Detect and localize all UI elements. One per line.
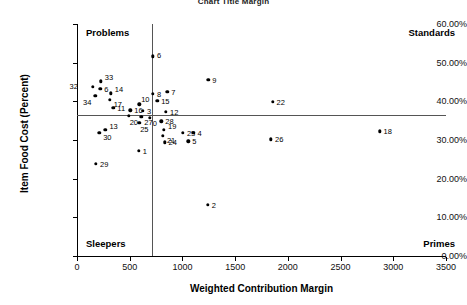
data-point-label: 5 xyxy=(192,137,196,146)
data-point xyxy=(151,92,154,95)
data-point xyxy=(98,87,101,90)
quadrant-label-problems: Problems xyxy=(86,27,129,38)
quadrant-label-sleepers: Sleepers xyxy=(86,238,126,249)
x-tick-label: 2000 xyxy=(278,262,298,272)
data-point-label: 9 xyxy=(212,76,216,85)
data-point-label: 32 xyxy=(69,82,77,91)
data-point xyxy=(141,109,144,112)
chart-title: Chart Title Margin xyxy=(0,0,467,6)
data-point xyxy=(187,139,190,142)
data-point-label: 7 xyxy=(171,87,175,96)
y-tick-label: 10.00% xyxy=(405,212,467,222)
data-point-label: 0 xyxy=(153,118,157,127)
x-tick-mark xyxy=(393,257,394,261)
data-point xyxy=(94,162,97,165)
y-tick-mark xyxy=(73,256,77,257)
y-axis-line xyxy=(77,24,78,257)
data-point-label: 11 xyxy=(117,103,125,112)
data-point xyxy=(97,131,100,134)
data-point xyxy=(91,85,94,88)
x-axis-title: Weighted Contribution Margin xyxy=(77,283,446,294)
data-point xyxy=(206,203,209,206)
data-point-label: 29 xyxy=(100,159,108,168)
data-point xyxy=(99,80,102,83)
y-tick-label: 0.00% xyxy=(405,251,467,261)
x-tick-label: 1000 xyxy=(172,262,192,272)
data-point-label: 1 xyxy=(143,146,147,155)
data-point xyxy=(181,131,184,134)
data-point-label: 22 xyxy=(277,98,285,107)
x-tick-label: 0 xyxy=(74,262,79,272)
quadrant-label-primes: Primes xyxy=(423,238,455,249)
data-point-label: 2 xyxy=(212,200,216,209)
data-point xyxy=(129,109,132,112)
x-tick-label: 1500 xyxy=(225,262,245,272)
data-point xyxy=(112,106,115,109)
data-point xyxy=(140,115,143,118)
y-tick-mark xyxy=(73,140,77,141)
data-point-label: 15 xyxy=(161,96,169,105)
data-point-label: 10 xyxy=(141,95,149,104)
data-point xyxy=(137,149,140,152)
quadrant-label-standards: Standards xyxy=(409,27,455,38)
scatter-chart: Chart Title Margin 050010001500200025003… xyxy=(0,0,467,305)
data-point-label: 34 xyxy=(83,97,91,106)
x-tick-mark xyxy=(235,257,236,261)
data-point-label: 4 xyxy=(197,129,201,138)
x-tick-mark xyxy=(77,257,78,261)
x-tick-mark xyxy=(288,257,289,261)
data-point xyxy=(161,134,164,137)
data-point-label: 26 xyxy=(275,135,283,144)
data-point-label: 3 xyxy=(147,106,151,115)
x-tick-label: 3000 xyxy=(383,262,403,272)
data-point xyxy=(378,130,381,133)
data-point-label: 19 xyxy=(168,121,176,130)
x-tick-label: 3500 xyxy=(436,262,456,272)
data-point-label: 24 xyxy=(169,138,177,147)
data-point-label: 6 xyxy=(104,84,108,93)
y-tick-label: 30.00% xyxy=(405,135,467,145)
data-point xyxy=(207,78,210,81)
vertical-reference-line xyxy=(152,24,153,256)
data-point-label: 30 xyxy=(103,133,111,142)
data-point xyxy=(271,100,274,103)
x-tick-mark xyxy=(130,257,131,261)
y-axis-title: Item Food Cost (Percent) xyxy=(19,14,30,254)
data-point xyxy=(162,128,165,131)
data-point xyxy=(108,98,111,101)
data-point xyxy=(109,92,112,95)
y-tick-mark xyxy=(73,101,77,102)
data-point-label: 33 xyxy=(105,73,113,82)
data-point xyxy=(269,138,272,141)
data-point-label: 12 xyxy=(170,107,178,116)
data-point xyxy=(151,55,154,58)
data-point xyxy=(160,120,163,123)
y-tick-label: 50.00% xyxy=(405,58,467,68)
data-point xyxy=(164,110,167,113)
x-tick-label: 500 xyxy=(122,262,137,272)
data-point xyxy=(155,99,158,102)
data-point xyxy=(165,90,168,93)
y-tick-mark xyxy=(73,217,77,218)
data-point xyxy=(104,128,107,131)
data-point-label: 25 xyxy=(140,124,148,133)
data-point xyxy=(94,94,97,97)
x-tick-mark xyxy=(182,257,183,261)
x-tick-label: 2500 xyxy=(331,262,351,272)
y-tick-mark xyxy=(73,24,77,25)
x-axis-line xyxy=(77,256,446,257)
y-tick-label: 20.00% xyxy=(405,174,467,184)
y-tick-mark xyxy=(73,179,77,180)
y-tick-label: 40.00% xyxy=(405,96,467,106)
x-tick-mark xyxy=(341,257,342,261)
data-point-label: 14 xyxy=(115,85,123,94)
data-point-label: 6 xyxy=(157,51,161,60)
data-point xyxy=(163,141,166,144)
y-tick-mark xyxy=(73,63,77,64)
data-point-label: 18 xyxy=(384,127,392,136)
data-point-label: 13 xyxy=(109,121,117,130)
horizontal-reference-line xyxy=(77,115,446,116)
